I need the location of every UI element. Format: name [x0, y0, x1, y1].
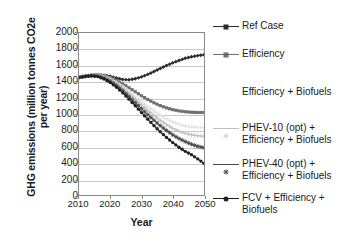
legend-item-3[interactable]: PHEV-10 (opt) + Efficiency + Biofuels: [213, 122, 332, 145]
legend-item-0[interactable]: Ref Case: [213, 20, 284, 32]
legend-key-marker: [223, 161, 230, 168]
legend-item-label: Efficiency: [242, 48, 285, 60]
x-axis-tick-mark: [142, 196, 143, 199]
y-axis-tick-label: 1400: [38, 76, 78, 86]
y-axis-tick-label: 600: [38, 142, 78, 152]
y-axis-tick-label: 1600: [38, 60, 78, 70]
plus-marker-icon: [213, 123, 239, 134]
circle-marker-icon: [213, 193, 239, 204]
legend-item-label: PHEV-40 (opt) + Efficiency + Biofuels: [242, 158, 332, 181]
square-marker-icon: [213, 49, 239, 60]
x-axis-tick-mark: [173, 196, 174, 199]
chart-figure: GHG emissions (million tonnes CO2e per y…: [0, 0, 360, 246]
series-layer: [79, 33, 204, 194]
legend-item-label: Efficiency + Biofuels: [242, 86, 332, 98]
x-axis-tick-mark: [78, 196, 79, 199]
legend-key-marker: [224, 196, 229, 201]
y-axis-tick-label: 800: [38, 125, 78, 135]
legend-item-label: FCV + Efficiency + Biofuels: [242, 192, 325, 215]
legend-key-marker: [224, 52, 229, 57]
plot-area: [78, 32, 205, 196]
legend-item-4[interactable]: PHEV-40 (opt) + Efficiency + Biofuels: [213, 158, 332, 181]
x-axis-title: Year: [78, 216, 205, 228]
legend-key-marker: [224, 24, 229, 29]
y-axis-tick-label: 200: [38, 175, 78, 185]
series-3: [79, 73, 204, 138]
legend-key-marker: [223, 125, 230, 132]
diamond-marker-icon: [213, 21, 239, 32]
y-axis-tick-label: 1000: [38, 109, 78, 119]
y-axis-tick-label: 1200: [38, 93, 78, 103]
legend-item-label: PHEV-10 (opt) + Efficiency + Biofuels: [242, 122, 332, 145]
plus-marker-icon: [213, 87, 239, 98]
legend-item-2[interactable]: Efficiency + Biofuels: [213, 86, 332, 98]
x-axis-tick-mark: [205, 196, 206, 199]
y-axis-tick-label: 1800: [38, 43, 78, 53]
legend-item-label: Ref Case: [242, 20, 284, 32]
legend-item-5[interactable]: FCV + Efficiency + Biofuels: [213, 192, 325, 215]
series-2: [79, 73, 204, 130]
y-axis-tick-label: 2000: [38, 27, 78, 37]
x-axis-tick-mark: [110, 196, 111, 199]
legend-item-1[interactable]: Efficiency: [213, 48, 285, 60]
y-axis-tick-label: 400: [38, 158, 78, 168]
star-marker-icon: [213, 159, 239, 170]
series-5: [79, 74, 204, 165]
y-axis-title: GHG emissions (million tonnes CO2e per y…: [25, 12, 49, 202]
